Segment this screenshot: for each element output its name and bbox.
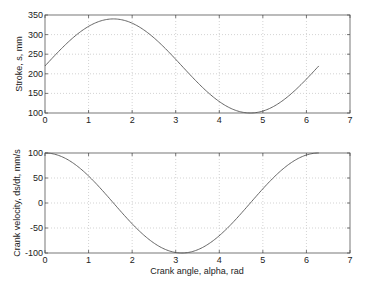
bottom-xlabel: Crank angle, alpha, rad <box>150 266 244 276</box>
y-tick-label: 50 <box>33 173 43 183</box>
y-tick-label: 100 <box>28 108 43 118</box>
y-tick-label: 0 <box>38 198 43 208</box>
y-tick-label: 300 <box>28 30 43 40</box>
data-line <box>45 19 319 113</box>
x-tick-label: 6 <box>304 115 309 125</box>
y-tick-label: -100 <box>25 248 43 258</box>
x-tick-label: 2 <box>130 255 135 265</box>
x-tick-label: 3 <box>173 115 178 125</box>
data-line <box>45 153 319 253</box>
x-tick-label: 4 <box>217 115 222 125</box>
x-tick-label: 5 <box>260 255 265 265</box>
x-tick-label: 5 <box>260 115 265 125</box>
y-tick-label: 200 <box>28 69 43 79</box>
x-tick-label: 4 <box>217 255 222 265</box>
y-tick-label: 150 <box>28 88 43 98</box>
x-tick-label: 7 <box>347 255 352 265</box>
x-tick-label: 1 <box>86 115 91 125</box>
velocity-plot: 01234567-100-50050100 <box>25 148 353 265</box>
x-tick-label: 6 <box>304 255 309 265</box>
y-tick-label: 250 <box>28 49 43 59</box>
bottom-ylabel: Crank velocity, ds/dt, mm/s <box>12 149 22 257</box>
top-ylabel: Stroke, s, mm <box>14 36 24 92</box>
stroke-plot: 01234567100150200250300350 <box>28 10 353 125</box>
x-tick-label: 2 <box>130 115 135 125</box>
x-tick-label: 3 <box>173 255 178 265</box>
chart-figure: 01234567100150200250300350 01234567-100-… <box>0 0 367 289</box>
x-tick-label: 0 <box>42 255 47 265</box>
x-tick-label: 1 <box>86 255 91 265</box>
axes-frame <box>45 15 350 113</box>
y-tick-label: 100 <box>28 148 43 158</box>
x-tick-label: 7 <box>347 115 352 125</box>
x-tick-label: 0 <box>42 115 47 125</box>
y-tick-label: 350 <box>28 10 43 20</box>
y-tick-label: -50 <box>30 223 43 233</box>
